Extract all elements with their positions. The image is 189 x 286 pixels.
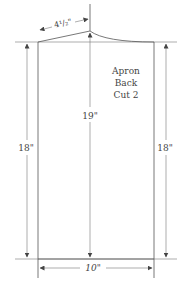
apron-back-pattern: 4¹/₂" Apron Back Cut 2 19" 18" 18" 10" [0,0,189,286]
title-line-2: Back [115,78,138,88]
center-length-label: 19" [82,111,98,121]
right-side-length-label: 18" [157,143,173,153]
shoulder-line [38,31,90,42]
shoulder-width-label: 4¹/₂" [53,17,72,30]
left-side-length-label: 18" [18,143,34,153]
shoulder-dimension-arrow-left [40,27,52,30]
neck-curve [90,31,154,42]
title-line-3: Cut 2 [114,90,139,100]
shoulder-dimension-arrow-right [75,19,88,22]
title-line-1: Apron [111,66,140,76]
bottom-width-label: 10" [85,263,101,273]
